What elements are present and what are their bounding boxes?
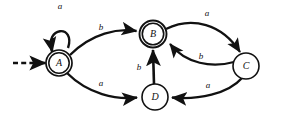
state-b-label: B [150,28,156,39]
edge-d-to-b-path [153,50,154,84]
state-d-label: D [150,91,159,102]
state-node-b[interactable]: B [140,21,167,48]
edge-a-to-a-head [52,38,54,52]
state-node-d[interactable]: D [142,84,168,110]
edge-label-a-to-a: a [58,1,63,11]
edge-label-a-to-b: b [99,22,104,32]
state-node-a[interactable]: A [46,50,72,76]
edge-a-to-b [70,30,137,55]
edge-a-to-b-path [70,30,137,55]
edge-b-to-c-path [166,23,240,52]
edge-label-c-to-d: a [206,80,211,90]
edge-d-to-b [153,50,154,84]
edge-a-to-a [51,31,70,52]
edge-label-c-to-b: b [199,51,204,61]
edge-label-a-to-d: a [99,78,104,88]
state-node-c[interactable]: C [233,53,259,79]
state-a-label: A [55,57,63,68]
state-machine-diagram: A B C D a b a b a b a [0,0,281,119]
edge-label-b-to-c: a [205,8,210,18]
state-c-label: C [243,60,250,71]
edge-label-d-to-b: b [137,62,142,72]
fsm-diagram-canvas: A B C D a b a b a b a [0,0,281,119]
edge-b-to-c [166,23,240,52]
